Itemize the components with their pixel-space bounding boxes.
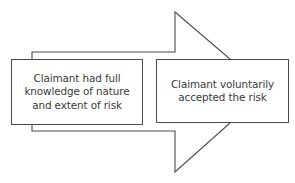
- condition-text-full-knowledge: Claimant had full knowledge of nature an…: [24, 72, 129, 113]
- condition-text-voluntary-acceptance: Claimant voluntarily accepted the risk: [171, 78, 274, 105]
- text-line: and extent of risk: [24, 99, 129, 113]
- text-line: accepted the risk: [171, 91, 274, 105]
- text-line: knowledge of nature: [24, 85, 129, 99]
- process-diagram: Claimant had full knowledge of nature an…: [0, 0, 295, 183]
- condition-box-voluntary-acceptance: Claimant voluntarily accepted the risk: [156, 59, 289, 123]
- text-line: Claimant had full: [24, 72, 129, 86]
- condition-box-full-knowledge: Claimant had full knowledge of nature an…: [11, 59, 143, 125]
- text-line: Claimant voluntarily: [171, 78, 274, 92]
